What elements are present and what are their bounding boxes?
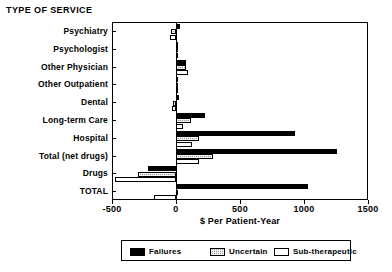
- chart-title: TYPE OF SERVICE: [6, 5, 92, 15]
- bar-total-net-drugs-sub-therapeutic: [176, 159, 199, 164]
- bar-long-term-care-uncertain: [176, 118, 191, 123]
- bar-drugs-uncertain: [138, 172, 176, 177]
- bar-total-net-drugs-uncertain: [176, 154, 213, 159]
- zero-axis-line: [176, 23, 177, 199]
- y-axis-label-drugs: Drugs: [0, 168, 108, 178]
- bar-total-failures: [176, 184, 308, 189]
- legend-label-uncertain: Uncertain: [229, 247, 268, 256]
- legend-label-failures: Failures: [149, 247, 181, 256]
- x-axis-tick-label: 0: [173, 204, 178, 214]
- bar-total-sub-therapeutic: [154, 195, 176, 199]
- legend-item-sub: Sub-therapeutic: [274, 245, 357, 258]
- y-axis-label-dental: Dental: [0, 97, 108, 107]
- x-axis-tick-label: -500: [102, 204, 121, 214]
- bar-hospital-sub-therapeutic: [176, 142, 192, 147]
- bar-drugs-sub-therapeutic: [115, 177, 176, 182]
- bar-other-physician-sub-therapeutic: [176, 70, 188, 75]
- bars-layer: [113, 23, 367, 199]
- y-axis-label-total-net-drugs: Total (net drugs): [0, 151, 108, 161]
- bar-hospital-failures: [176, 131, 295, 136]
- y-axis-label-other-physician: Other Physician: [0, 62, 108, 72]
- bar-hospital-uncertain: [176, 136, 199, 141]
- y-axis-label-psychiatry: Psychiatry: [0, 26, 108, 36]
- x-axis-tick-label: 1500: [357, 204, 378, 214]
- legend-swatch-failures: [130, 248, 145, 256]
- bar-long-term-care-sub-therapeutic: [176, 124, 183, 129]
- y-axis-label-hospital: Hospital: [0, 133, 108, 143]
- legend-swatch-sub: [274, 248, 289, 256]
- x-axis-title: $ Per Patient-Year: [112, 216, 368, 226]
- y-axis-label-total: TOTAL: [0, 186, 108, 196]
- legend-item-failures: Failures: [130, 245, 181, 258]
- bar-total-net-drugs-failures: [176, 149, 337, 154]
- y-axis-label-psychologist: Psychologist: [0, 44, 108, 54]
- bar-other-physician-failures: [176, 60, 186, 65]
- chart-legend: FailuresUncertainSub-therapeutic: [121, 240, 351, 261]
- y-axis-label-other-outpatient: Other Outpatient: [0, 79, 108, 89]
- bar-drugs-failures: [148, 166, 176, 171]
- x-axis-tick-label: 500: [232, 204, 248, 214]
- legend-item-uncertain: Uncertain: [210, 245, 268, 258]
- y-axis-category-labels: PsychiatryPsychologistOther PhysicianOth…: [0, 22, 108, 200]
- legend-swatch-uncertain: [210, 248, 225, 256]
- chart-root: TYPE OF SERVICE PsychiatryPsychologistOt…: [0, 0, 392, 272]
- bar-other-physician-uncertain: [176, 65, 186, 70]
- legend-label-sub: Sub-therapeutic: [293, 247, 357, 256]
- bar-long-term-care-failures: [176, 113, 205, 118]
- x-axis-tick-label: 1000: [293, 204, 314, 214]
- y-axis-label-long-term-care: Long-term Care: [0, 115, 108, 125]
